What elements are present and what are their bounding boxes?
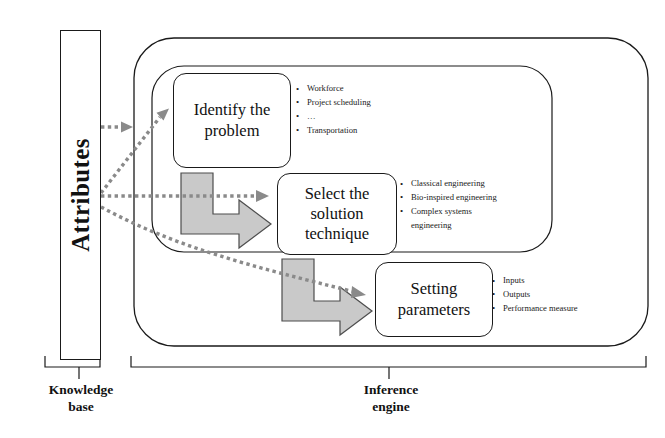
bullet-item: Inputs: [492, 274, 617, 288]
step-box-identify-the-problem[interactable]: Identify the problem: [173, 73, 291, 168]
step-label-select: Select the solution technique: [305, 184, 370, 244]
attributes-label: Attributes: [67, 138, 95, 252]
dotted-arrow-attributes-to-identify: [101, 122, 133, 133]
bullet-item: Classical engineering: [400, 177, 520, 191]
step-box-setting-parameters[interactable]: Setting parameters: [375, 262, 493, 337]
bullet-item: Bio-inspired engineering: [400, 191, 520, 205]
bullet-list-select: Classical engineering Bio-inspired engin…: [400, 177, 520, 233]
bullet-item: …: [296, 110, 416, 124]
bullet-item: Transportation: [296, 124, 416, 138]
inference-engine-caption: Inference engine: [336, 381, 446, 416]
attributes-box[interactable]: Attributes: [60, 30, 101, 360]
bullet-item: Complex systems engineering: [400, 205, 520, 233]
knowledge-base-caption: Knowledge base: [28, 381, 134, 416]
step-box-select-the-solution-technique[interactable]: Select the solution technique: [277, 173, 397, 255]
bullet-list-setting: Inputs Outputs Performance measure: [492, 274, 617, 316]
bullet-item: Workforce: [296, 82, 416, 96]
step-label-identify: Identify the problem: [194, 100, 271, 140]
bullet-item: Project scheduling: [296, 96, 416, 110]
bullet-list-identify: Workforce Project scheduling … Transport…: [296, 82, 416, 138]
bullet-item: Performance measure: [492, 302, 617, 316]
inference-engine-brace: [131, 356, 646, 367]
diagram-canvas: Attributes Identify the problem Select t…: [0, 0, 665, 438]
bullet-item: Outputs: [492, 288, 617, 302]
step-label-setting: Setting parameters: [398, 279, 470, 319]
